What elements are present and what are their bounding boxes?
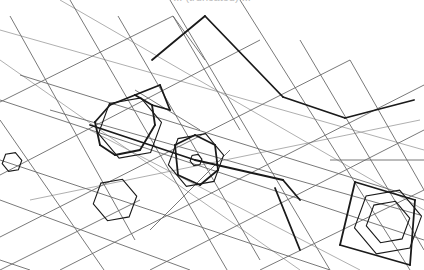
heavy-line [345, 100, 414, 118]
heavy-line [340, 182, 355, 245]
grid-line [0, 200, 190, 270]
hexagon-shape [93, 179, 136, 220]
grid-line [0, 40, 260, 175]
heavy-line [410, 200, 415, 265]
grid-line [10, 16, 135, 240]
light-grid-lines [0, 0, 424, 270]
grid-line [0, 260, 30, 270]
grid-line [150, 130, 424, 270]
grid-line [260, 190, 424, 270]
heavy-line [95, 122, 100, 145]
heavy-path-lines [90, 16, 415, 265]
heavy-line [152, 105, 155, 125]
light-line [0, 60, 300, 270]
geometric-lattice-diagram [0, 0, 424, 270]
heavy-line [205, 16, 283, 97]
heavy-line [340, 245, 410, 265]
light-line [60, 0, 424, 210]
grid-line [350, 60, 424, 190]
grid-line [0, 200, 140, 270]
grid-line [0, 120, 104, 270]
heavy-line [195, 135, 215, 145]
heavy-line [283, 180, 300, 200]
grid-line [0, 100, 424, 240]
heavy-line [275, 188, 300, 250]
thin-grid-lines [0, 0, 424, 270]
